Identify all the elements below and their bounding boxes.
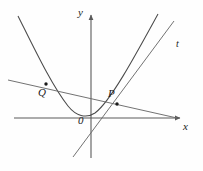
figure-canvas [0,0,203,171]
tangent-line-t [73,21,174,157]
point-label-p: P [108,88,115,99]
x-axis-label: x [183,121,188,132]
secant-line-qp [8,80,177,118]
origin-label: 0 [78,115,84,126]
parabola-curve [18,14,158,116]
geometry-figure: y x 0 t P Q [0,0,203,171]
point-label-q: Q [38,87,46,98]
point-marker-p [115,102,118,105]
tangent-line-label: t [176,39,179,49]
y-axis-label: y [78,7,83,18]
